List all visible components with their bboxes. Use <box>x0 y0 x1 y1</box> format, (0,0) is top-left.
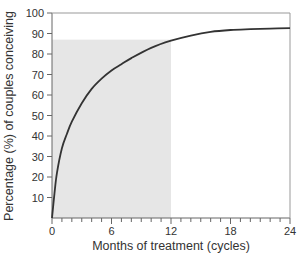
shaded-region <box>52 40 171 218</box>
conception-chart: 102030405060708090100 06121824 Months of… <box>0 0 303 260</box>
y-tick-label: 60 <box>32 89 44 101</box>
x-tick-label: 0 <box>49 225 55 237</box>
y-tick-label: 100 <box>26 7 44 19</box>
y-tick-label: 30 <box>32 151 44 163</box>
y-tick-label: 50 <box>32 110 44 122</box>
x-axis-ticks: 06121824 <box>49 218 296 237</box>
y-tick-label: 40 <box>32 130 44 142</box>
y-tick-label: 80 <box>32 48 44 60</box>
x-tick-label: 6 <box>108 225 114 237</box>
y-tick-label: 70 <box>32 69 44 81</box>
shaded-first-year-region <box>52 40 171 218</box>
y-tick-label: 10 <box>32 192 44 204</box>
y-tick-label: 90 <box>32 28 44 40</box>
y-tick-label: 20 <box>32 171 44 183</box>
x-tick-label: 18 <box>224 225 236 237</box>
y-axis-label: Percentage (%) of couples conceiving <box>2 11 16 221</box>
x-axis-label: Months of treatment (cycles) <box>92 239 250 253</box>
y-axis-ticks: 102030405060708090100 <box>26 7 52 204</box>
x-tick-label: 24 <box>284 225 296 237</box>
x-tick-label: 12 <box>165 225 177 237</box>
